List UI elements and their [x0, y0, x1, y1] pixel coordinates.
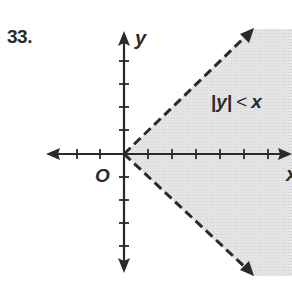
inequality-text: |y|<x — [211, 91, 263, 112]
x-axis-label: x — [285, 163, 292, 185]
shaded-solution-region — [124, 29, 292, 276]
y-axis-label: y — [134, 27, 147, 49]
inequality-var-x: x — [250, 91, 263, 112]
abs-bar-close: | — [227, 91, 232, 112]
inequality-relation: < — [236, 91, 247, 112]
x-axis-arrow-left — [46, 148, 60, 160]
inequality-label: |y|<x — [211, 91, 263, 112]
coordinate-graph: y x O |y|<x — [0, 0, 292, 288]
origin-label: O — [95, 165, 110, 186]
